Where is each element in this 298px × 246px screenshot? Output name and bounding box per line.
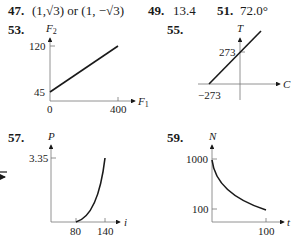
g55-x-tick-neg273: −273 <box>198 89 221 101</box>
g55-y-axis-label: T <box>237 22 243 34</box>
g53-x-tick-400: 400 <box>110 103 127 115</box>
g57-x-axis-label: i <box>124 216 127 228</box>
g53-y-tick-45: 45 <box>34 86 45 98</box>
g59-x-tick-100: 100 <box>258 225 275 237</box>
graph-59 <box>212 145 284 222</box>
g53-x-axis-label: F1 <box>138 95 149 109</box>
graphs-canvas <box>0 0 298 246</box>
g55-x-axis-label: C <box>283 78 290 90</box>
g57-y-tick-3.35: 3.35 <box>29 152 48 164</box>
graph-53 <box>50 38 135 101</box>
g53-y-axis-label: F2 <box>46 22 57 36</box>
g59-x-axis-label: t <box>287 216 290 228</box>
g59-y-axis-label: N <box>209 130 216 142</box>
g59-y-tick-1000: 1000 <box>186 153 208 165</box>
g57-y-axis-label: P <box>48 130 55 142</box>
graph-57 <box>51 145 120 222</box>
g57-x-tick-80: 80 <box>70 225 81 237</box>
g59-y-tick-100: 100 <box>192 203 209 215</box>
g55-y-tick-273: 273 <box>219 46 236 58</box>
g53-y-tick-120: 120 <box>29 40 46 52</box>
g57-x-tick-140: 140 <box>97 225 114 237</box>
g53-x-tick-0: 0 <box>47 103 53 115</box>
